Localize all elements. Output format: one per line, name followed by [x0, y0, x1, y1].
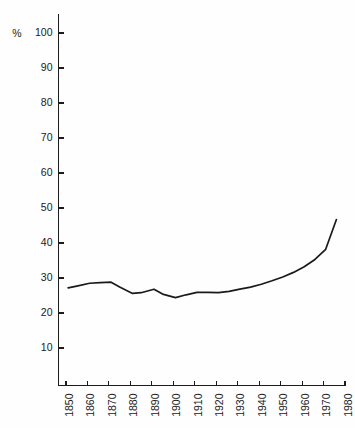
x-tick-label-1920: 1920	[213, 393, 225, 417]
x-tick-label-1980: 1980	[342, 393, 354, 417]
chart-canvas: 102030405060708090100 185018601870188018…	[0, 0, 355, 428]
y-axis-group: 102030405060708090100	[35, 14, 64, 386]
x-tick-label-1910: 1910	[192, 393, 204, 417]
y-tick-label-50: 50	[41, 201, 53, 213]
x-tick-label-1960: 1960	[299, 393, 311, 417]
data-line-value	[68, 220, 336, 298]
y-tick-label-90: 90	[41, 61, 53, 73]
y-tick-label-100: 100	[35, 26, 53, 38]
line-chart-figure: 102030405060708090100 185018601870188018…	[0, 0, 355, 428]
y-axis-ticks	[59, 33, 64, 348]
x-tick-label-1940: 1940	[256, 393, 268, 417]
y-tick-label-20: 20	[41, 306, 53, 318]
x-axis-group: 1850186018701880189019001910192019301940…	[59, 381, 354, 417]
y-tick-label-30: 30	[41, 271, 53, 283]
x-axis-tick-labels: 1850186018701880189019001910192019301940…	[63, 393, 354, 417]
x-tick-label-1930: 1930	[234, 393, 246, 417]
x-tick-label-1950: 1950	[277, 393, 289, 417]
x-axis-ticks	[66, 381, 345, 386]
y-tick-label-10: 10	[41, 341, 53, 353]
x-tick-label-1850: 1850	[63, 393, 75, 417]
y-axis-unit-label: %	[12, 27, 21, 39]
data-series-group	[68, 220, 336, 298]
x-tick-label-1880: 1880	[127, 393, 139, 417]
y-tick-label-80: 80	[41, 96, 53, 108]
y-tick-label-60: 60	[41, 166, 53, 178]
x-tick-label-1900: 1900	[170, 393, 182, 417]
y-tick-label-70: 70	[41, 131, 53, 143]
y-tick-label-40: 40	[41, 236, 53, 248]
x-tick-label-1860: 1860	[84, 393, 96, 417]
x-tick-label-1870: 1870	[106, 393, 118, 417]
y-axis-tick-labels: 102030405060708090100	[35, 26, 53, 353]
x-tick-label-1970: 1970	[320, 393, 332, 417]
x-tick-label-1890: 1890	[149, 393, 161, 417]
